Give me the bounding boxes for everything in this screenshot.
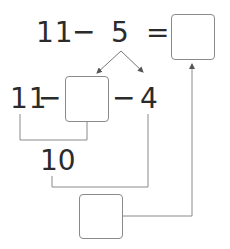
equation-minuend: 11 — [36, 19, 74, 47]
decomposition-minus-1: − — [38, 84, 61, 112]
subtraction-diagram: 11 − 5 = 11 − − 4 10 — [0, 0, 230, 249]
decomposition-minus-2: − — [112, 84, 135, 112]
equation-subtrahend: 5 — [111, 19, 129, 47]
intermediate-value: 10 — [40, 147, 76, 175]
equation-equals: = — [146, 19, 169, 47]
final-box[interactable] — [79, 194, 123, 239]
part-box[interactable] — [65, 76, 109, 122]
answer-box[interactable] — [171, 14, 215, 60]
decomposition-part-2: 4 — [140, 85, 158, 113]
split-arrow-left — [97, 51, 121, 73]
split-arrow-right — [121, 51, 143, 72]
equation-minus: − — [72, 18, 95, 46]
